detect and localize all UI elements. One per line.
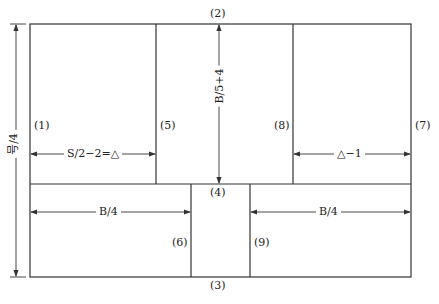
point-label-5: (5)	[160, 120, 176, 132]
point-label-9: (9)	[254, 237, 270, 249]
dimension-bottom-right-width: B/4	[316, 206, 341, 218]
point-label-6: (6)	[172, 237, 188, 249]
dimension-center-height: B/5+4	[214, 65, 226, 106]
point-label-7: (7)	[415, 120, 431, 132]
point-label-8: (8)	[274, 120, 290, 132]
point-label-3: (3)	[210, 280, 226, 292]
dimension-top-left-width: S/2−2=△	[64, 148, 122, 160]
dimension-left-height: 号/4	[8, 130, 20, 158]
point-label-4: (4)	[210, 187, 226, 199]
dimension-bottom-left-width: B/4	[96, 206, 121, 218]
point-label-2: (2)	[210, 8, 226, 20]
dimension-top-right-width: △−1	[334, 148, 365, 160]
point-label-1: (1)	[34, 120, 50, 132]
